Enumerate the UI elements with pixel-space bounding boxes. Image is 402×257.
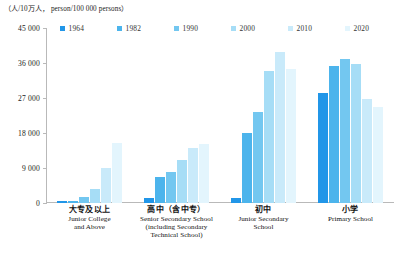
category-label-cn: 高中（含中专） [134,206,219,215]
bar[interactable] [231,198,241,204]
category-label-en: Senior Secondary School(including Second… [134,216,219,240]
y-axis-tick-label: 36 000 [18,59,40,68]
bar-group [133,28,220,203]
category-label: 小学Primary School [307,206,394,240]
category-label-en: Junior Collegeand Above [47,216,132,232]
category-label-en: Junior SecondarySchool [221,216,306,232]
bar[interactable] [188,148,198,203]
y-axis-tick-label: 18 000 [18,129,40,138]
bar[interactable] [166,172,176,203]
bar[interactable] [351,64,361,203]
bar-group [220,28,307,203]
bar[interactable] [144,198,154,203]
bar[interactable] [275,52,285,203]
category-label-cn: 大专及以上 [47,206,132,215]
y-axis-tick [43,203,47,204]
category-label-cn: 小学 [308,206,393,215]
category-label: 大专及以上Junior Collegeand Above [46,206,133,240]
bar[interactable] [362,99,372,203]
bar-group [46,28,133,203]
y-axis-tick-label: 9 000 [22,164,40,173]
bar[interactable] [340,59,350,203]
bar[interactable] [90,189,100,203]
bar[interactable] [112,143,122,203]
bar[interactable] [264,71,274,203]
bar[interactable] [79,197,89,203]
y-axis-tick-label: 27 000 [18,94,40,103]
bar[interactable] [155,177,165,203]
bar[interactable] [68,201,78,203]
education-attainment-bar-chart: （人/10万人， person/100 000 persons） 1964 19… [0,0,402,257]
bar[interactable] [199,144,209,203]
category-labels: 大专及以上Junior Collegeand Above高中（含中专）Senio… [46,206,394,240]
bar[interactable] [373,107,383,203]
plot-area: 09 00018 00027 00036 00045 000 [46,28,394,203]
y-axis-tick-label: 45 000 [18,24,40,33]
category-label: 高中（含中专）Senior Secondary School(including… [133,206,220,240]
bar[interactable] [318,93,328,203]
category-label-cn: 初中 [221,206,306,215]
unit-caption: （人/10万人， person/100 000 persons） [4,3,128,13]
bar-group [307,28,394,203]
bar[interactable] [242,133,252,203]
bar[interactable] [329,66,339,203]
bar[interactable] [253,112,263,203]
bar[interactable] [177,160,187,203]
bar[interactable] [57,201,67,203]
category-label-en: Primary School [308,216,393,224]
y-axis-tick-label: 0 [36,199,40,208]
bar[interactable] [101,168,111,203]
bar[interactable] [286,69,296,203]
category-label: 初中Junior SecondarySchool [220,206,307,240]
bar-groups [46,28,394,203]
